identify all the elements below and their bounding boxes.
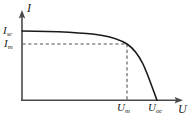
- x-axis-label: U: [178, 103, 187, 115]
- x-tick-label-um: Um: [117, 102, 130, 113]
- iv-characteristic-curve: [22, 31, 157, 100]
- iv-curve-chart: [0, 0, 192, 120]
- y-tick-label-isc: Isc: [3, 25, 12, 36]
- figure-container: I Isc Im Um Uoc U: [0, 0, 192, 120]
- y-axis-label: I: [27, 2, 31, 14]
- y-tick-label-im: Im: [4, 38, 13, 49]
- x-tick-label-uoc: Uoc: [148, 102, 162, 113]
